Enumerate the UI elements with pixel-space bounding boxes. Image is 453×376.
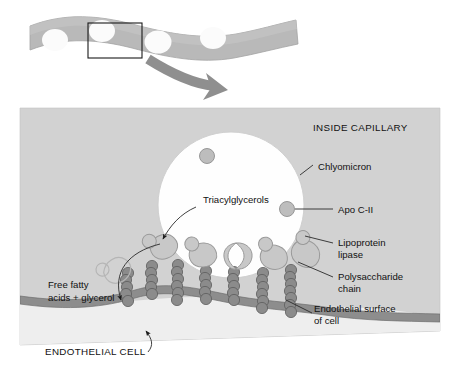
magnify-arrow-shaft xyxy=(148,59,214,86)
apo-c-ii-particle xyxy=(200,149,215,164)
label-triacylglycerols: Triacylglycerols xyxy=(203,194,269,205)
label-lipoprotein-lipase-line2: lipase xyxy=(338,249,363,260)
nucleus-1 xyxy=(42,29,68,51)
apo-c-ii-particle xyxy=(280,202,295,217)
label-free-fatty-acids-line1: Free fatty xyxy=(48,279,89,290)
nucleus-4 xyxy=(200,27,226,49)
polysaccharide-chain xyxy=(256,267,268,313)
tissue-capillary-overview xyxy=(30,17,298,100)
polysaccharide-chain xyxy=(145,260,157,299)
polysaccharide-chain xyxy=(171,259,183,305)
capillary-lumen-panel xyxy=(20,108,440,352)
polysaccharide-chain xyxy=(284,264,296,317)
label-apo-c-ii: Apo C-II xyxy=(338,204,373,215)
label-chylomicron: Chlyomicron xyxy=(318,161,371,172)
label-polysaccharide-line2: chain xyxy=(338,283,361,294)
label-free-fatty-acids-line2: acids + glycerol xyxy=(48,292,114,303)
label-endothelial-surface-line2: of cell xyxy=(314,315,339,326)
polysaccharide-chain xyxy=(227,266,239,305)
polysaccharide-chain xyxy=(120,267,133,306)
label-lipoprotein-lipase-line1: Lipoprotein xyxy=(338,237,385,248)
label-endothelial-surface-line1: Endothelial surface xyxy=(314,303,396,314)
label-endothelial-cell: ENDOTHELIAL CELL xyxy=(45,346,146,357)
figure-root: INSIDE CAPILLARY Chlyomicron Triacylglyc… xyxy=(0,0,453,376)
label-inside-capillary: INSIDE CAPILLARY xyxy=(313,122,408,133)
polysaccharide-chain xyxy=(199,265,211,304)
nucleus-3 xyxy=(145,31,172,54)
label-polysaccharide-line1: Polysaccharide xyxy=(338,271,403,282)
diagram-canvas: INSIDE CAPILLARY Chlyomicron Triacylglyc… xyxy=(0,0,453,376)
